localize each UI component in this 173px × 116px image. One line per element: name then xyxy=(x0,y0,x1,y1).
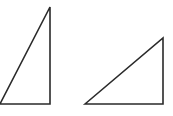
diagram-canvas xyxy=(0,0,173,116)
right-triangle-tall xyxy=(0,7,50,104)
right-triangle-wide xyxy=(85,38,163,104)
